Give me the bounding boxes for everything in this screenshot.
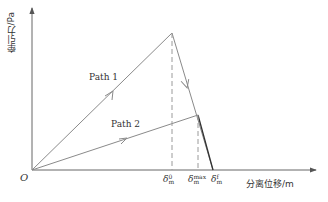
tick-delta-max: δmaxm <box>188 174 206 185</box>
x-axis-label: 分离位移/m <box>246 177 294 190</box>
tick-delta-0: δ0m <box>163 174 174 185</box>
diagram-canvas <box>0 0 328 202</box>
path1-label: Path 1 <box>89 72 118 82</box>
y-axis-label: 牵引力/Pa <box>4 12 17 53</box>
path2-label: Path 2 <box>111 119 140 129</box>
tick-sub: m <box>168 178 174 185</box>
origin-label: O <box>20 172 28 183</box>
path1-loading-line <box>32 33 172 170</box>
tick-delta-f: δfm <box>211 174 222 185</box>
softening-line-dark <box>198 115 213 170</box>
tick-sub: m <box>216 178 222 185</box>
tick-sub: m <box>193 178 199 185</box>
